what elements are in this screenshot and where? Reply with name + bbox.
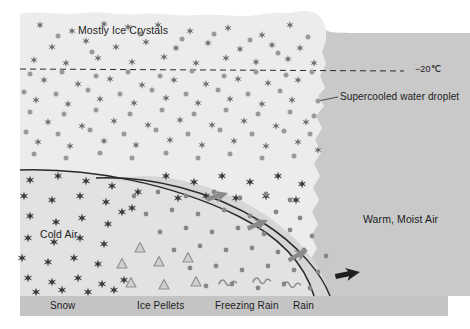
isotherm-temperature-label: −20℃ bbox=[415, 64, 441, 74]
ground-label-rain: Rain bbox=[293, 300, 314, 311]
warm-moist-air-label: Warm, Moist Air bbox=[363, 213, 438, 225]
supercooled-droplet-callout-label: Supercooled water droplet bbox=[340, 91, 459, 102]
precipitation-types-diagram: Mostly Ice Crystals −20℃ Supercooled wat… bbox=[0, 0, 470, 329]
ground-label-freezing-rain: Freezing Rain bbox=[215, 300, 279, 311]
ground-label-snow: Snow bbox=[50, 300, 75, 311]
cloud-title-label: Mostly Ice Crystals bbox=[78, 24, 168, 36]
diagram-canvas bbox=[0, 0, 470, 329]
warm-moist-air-region bbox=[310, 30, 470, 296]
warm-air-body bbox=[310, 30, 470, 296]
ground-label-ice-pellets: Ice Pellets bbox=[137, 300, 184, 311]
cold-air-label: Cold Air bbox=[40, 228, 78, 240]
